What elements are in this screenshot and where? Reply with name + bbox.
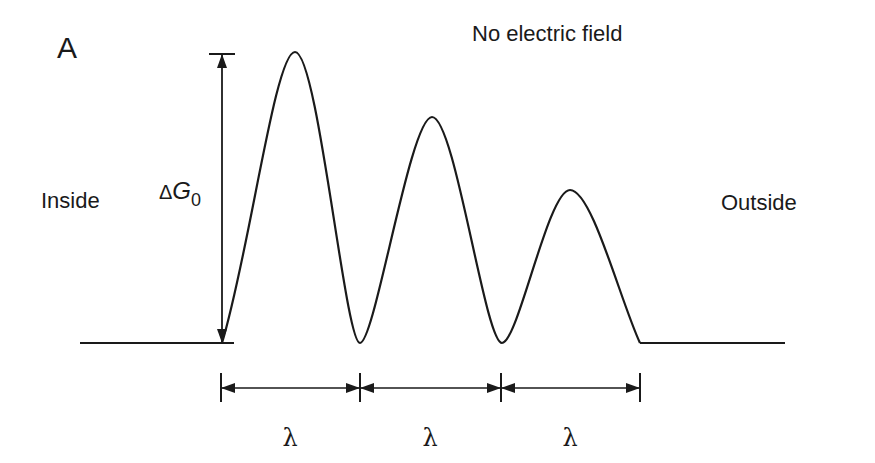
lambda-label-3: λ	[562, 424, 577, 452]
lambda-label-1: λ	[282, 424, 297, 452]
diagram-title: No electric field	[472, 21, 622, 46]
energy-barrier-diagram: λ λ λ A No electric field Inside Outside…	[0, 0, 875, 463]
lambda-label-2: λ	[422, 424, 437, 452]
panel-label: A	[57, 31, 77, 64]
g-symbol: G	[172, 177, 191, 204]
inside-label: Inside	[41, 188, 100, 213]
outside-label: Outside	[721, 190, 797, 215]
energy-profile-curve	[222, 52, 640, 343]
subscript-zero: 0	[191, 190, 201, 210]
delta-g0-label: ΔG0	[159, 177, 201, 210]
delta-symbol: Δ	[159, 181, 172, 203]
